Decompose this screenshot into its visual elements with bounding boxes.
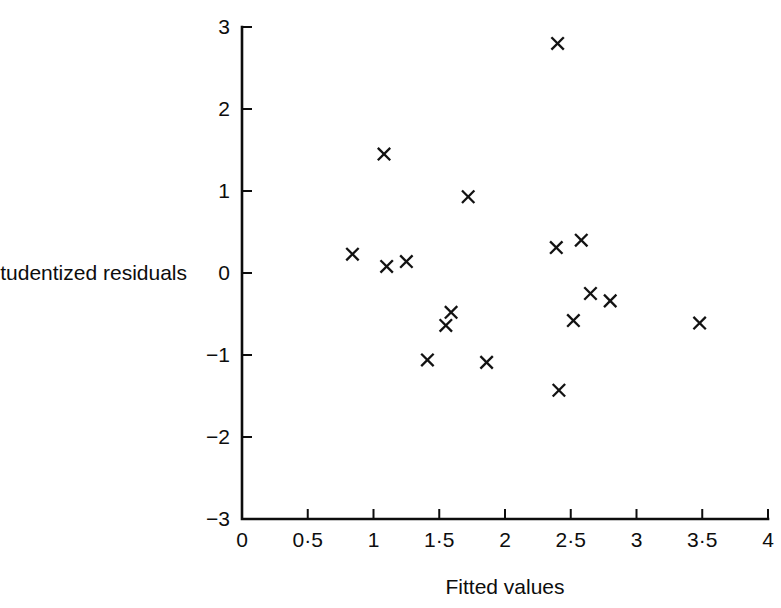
x-axis-tick-labels: 00·511·522·533·54 (236, 528, 774, 551)
data-point-marker (400, 255, 412, 267)
x-tick-label: 3 (631, 528, 643, 551)
data-point-marker (550, 241, 562, 253)
plot-canvas: −3−2−10123 00·511·522·533·54 Studentized… (0, 0, 781, 608)
y-tick-label: −1 (206, 343, 230, 366)
data-point-marker (584, 287, 596, 299)
y-tick-label: 0 (218, 261, 230, 284)
data-point-marker (421, 354, 433, 366)
data-point-marker (440, 319, 452, 331)
data-point-marker (553, 384, 565, 396)
data-point-marker (378, 148, 390, 160)
y-axis-title: Studentized residuals (0, 261, 187, 284)
y-tick-label: −3 (206, 507, 230, 530)
y-tick-label: −2 (206, 425, 230, 448)
y-tick-label: 1 (218, 179, 230, 202)
data-point-marker (346, 248, 358, 260)
data-point-marker (575, 234, 587, 246)
data-point-marker (480, 356, 492, 368)
x-tick-label: 2·5 (556, 528, 586, 551)
axis-lines (242, 27, 768, 519)
x-tick-label: 2 (499, 528, 511, 551)
x-axis-tick-marks (242, 509, 768, 519)
data-point-marker (604, 295, 616, 307)
x-tick-label: 4 (762, 528, 774, 551)
x-tick-label: 0 (236, 528, 248, 551)
data-point-marker (693, 317, 705, 329)
data-point-markers (346, 37, 706, 396)
data-point-marker (551, 37, 563, 49)
x-tick-label: 1 (368, 528, 380, 551)
data-point-marker (380, 260, 392, 272)
data-point-marker (445, 306, 457, 318)
x-tick-label: 0·5 (293, 528, 323, 551)
x-tick-label: 3·5 (687, 528, 717, 551)
x-tick-label: 1·5 (424, 528, 454, 551)
x-axis-title: Fitted values (445, 575, 564, 598)
data-point-marker (567, 314, 579, 326)
y-tick-label: 2 (218, 97, 230, 120)
scatter-plot-figure: −3−2−10123 00·511·522·533·54 Studentized… (0, 0, 781, 608)
y-axis-tick-labels: −3−2−10123 (206, 15, 230, 530)
y-tick-label: 3 (218, 15, 230, 38)
data-point-marker (462, 191, 474, 203)
y-axis-tick-marks (242, 27, 252, 519)
